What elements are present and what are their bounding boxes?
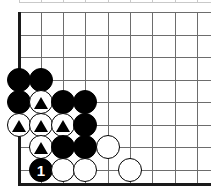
grid-line-vertical-partial (152, 0, 153, 2)
stone-black (51, 90, 75, 114)
go-board-diagram: 1 (0, 0, 211, 192)
stone-black (7, 68, 31, 92)
grid-line-vertical-8 (197, 12, 198, 183)
stone-white (96, 135, 120, 159)
grid-line-vertical-partial (63, 0, 64, 2)
grid-line-vertical-6 (152, 12, 153, 183)
grid-line-vertical-partial (197, 0, 198, 2)
triangle-marker-icon (12, 120, 26, 132)
stone-black (51, 135, 75, 159)
grid-line-horizontal-2 (19, 57, 211, 58)
stone-white-marked (29, 135, 53, 159)
grid-line-vertical-partial (175, 0, 176, 2)
stone-black-move-1: 1 (29, 158, 53, 182)
grid-line-horizontal-1 (19, 35, 211, 36)
stone-white (73, 158, 97, 182)
grid-line-vertical-partial (85, 0, 86, 2)
grid-line-vertical-partial (130, 0, 131, 2)
grid-line-vertical-partial (108, 0, 109, 2)
stone-white (118, 158, 142, 182)
stone-white-marked (51, 113, 75, 137)
stone-black (73, 113, 97, 137)
triangle-marker-icon (34, 120, 48, 132)
grid-line-vertical-7 (175, 12, 176, 183)
grid-line-vertical-partial (19, 0, 20, 2)
triangle-marker-icon (56, 120, 70, 132)
stone-black (73, 135, 97, 159)
grid-line-horizontal-0 (19, 12, 211, 13)
grid-line-vertical-partial (41, 0, 42, 2)
stone-white-marked (7, 113, 31, 137)
triangle-marker-icon (34, 142, 48, 154)
stone-black (7, 90, 31, 114)
stone-black (29, 68, 53, 92)
stone-black (73, 90, 97, 114)
triangle-marker-icon (34, 97, 48, 109)
move-number-label: 1 (37, 163, 45, 178)
board-edge-bottom (18, 183, 211, 186)
stone-white-marked (29, 113, 53, 137)
grid-line-horizontal-partial (19, 2, 211, 3)
stone-white-marked (29, 90, 53, 114)
stone-white (51, 158, 75, 182)
